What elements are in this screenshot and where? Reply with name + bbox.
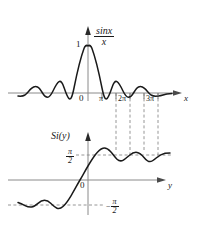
neg-pi-over-2-numerator: π: [111, 198, 119, 206]
si-x-axis-arrowhead: [157, 177, 166, 183]
sinc-ylabel: sinx x: [94, 26, 114, 47]
sinx-numerator: sinx: [94, 26, 114, 36]
pi-over-2-denominator: 2: [66, 156, 74, 165]
si-ytick-label-neg-pi-over-2: − π 2: [106, 198, 119, 215]
neg-pi-over-2-fraction: π 2: [111, 198, 119, 215]
si-xlabel: y: [168, 181, 172, 190]
sinc-xtick-label-pi: π: [99, 95, 103, 103]
si-ytick-label-pi-over-2: π 2: [66, 148, 74, 165]
sinc-xtick-label-3pi: 3π: [146, 95, 154, 103]
sinc-y-axis-arrowhead: [85, 26, 91, 35]
sinc-xlabel: x: [184, 94, 188, 103]
sinx-denominator: x: [94, 36, 114, 47]
neg-pi-over-2-denominator: 2: [111, 206, 119, 215]
sinc-origin-label: 0: [79, 94, 84, 103]
sinc-xtick-label-2pi: 2π: [118, 95, 126, 103]
si-origin-label: 0: [80, 181, 85, 190]
si-ylabel: Si(y): [51, 131, 70, 141]
si-y-axis-arrowhead: [85, 132, 91, 141]
sinc-ytick-label-1: 1: [76, 40, 81, 49]
sin-variable: x: [108, 25, 112, 36]
figure-sinc-and-si: sinx x 1 0 π 2π 3π x Si(y) π 2 0 − π 2 y: [0, 0, 197, 236]
sinx-over-x-fraction: sinx x: [94, 26, 114, 47]
sinc-curve: [18, 45, 172, 99]
pi-over-2-numerator: π: [66, 148, 74, 156]
pi-over-2-fraction: π 2: [66, 148, 74, 165]
sin-text: sin: [96, 25, 108, 36]
si-plot: [8, 132, 172, 215]
si-curve: [18, 148, 170, 209]
sinc-x-axis-arrowhead: [173, 90, 182, 96]
